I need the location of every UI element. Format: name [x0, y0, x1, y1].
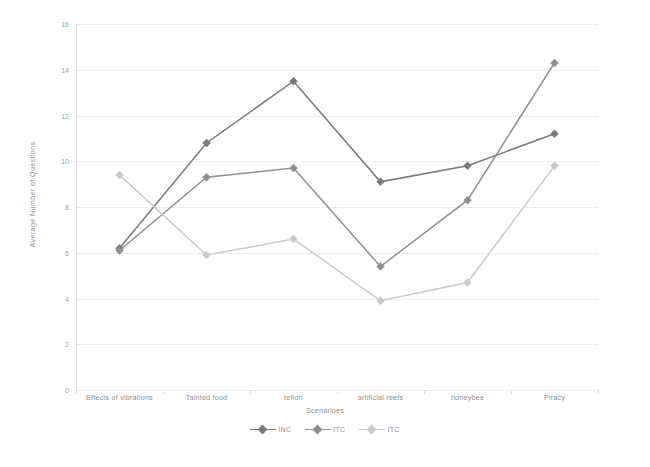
x-axis-category-label: teflon: [284, 393, 303, 402]
legend-item-itc-3[interactable]: ITC: [359, 425, 399, 433]
y-axis-tick-label: 10: [61, 158, 69, 165]
y-axis-tick-label: 8: [65, 204, 69, 211]
legend-line-swatch: [250, 425, 276, 433]
legend-label: ITC: [333, 426, 345, 433]
series-2: [115, 59, 558, 271]
x-axis-title: Scenarioes: [0, 406, 650, 415]
legend-label: ITC: [387, 426, 399, 433]
series-1: [115, 77, 558, 252]
plot-area: 0246810121416: [76, 24, 598, 390]
x-axis-category-label: artificial reefs: [358, 393, 404, 402]
data-point-marker: [550, 59, 558, 67]
legend-line-swatch: [359, 425, 385, 433]
chart-legend: INCITCITC: [0, 425, 650, 433]
x-axis-category-label: Tainted food: [186, 393, 228, 402]
legend-item-inc-1[interactable]: INC: [250, 425, 291, 433]
series-line: [120, 166, 555, 301]
legend-item-itc-2[interactable]: ITC: [305, 425, 345, 433]
x-axis-category-label: Piracy: [544, 393, 565, 402]
data-point-marker: [463, 162, 471, 170]
y-axis-tick-label: 16: [61, 21, 69, 28]
y-axis-tick-label: 0: [65, 387, 69, 394]
y-axis-title: Average Number of Questions: [28, 105, 37, 285]
legend-marker-icon: [313, 425, 323, 435]
y-axis-tick-label: 14: [61, 66, 69, 73]
line-chart: Average Number of Questions 024681012141…: [0, 0, 650, 467]
legend-label: INC: [278, 426, 291, 433]
data-point-marker: [550, 130, 558, 138]
legend-marker-icon: [258, 425, 268, 435]
x-axis-category-label: honeybee: [451, 393, 484, 402]
y-axis-tick-label: 12: [61, 112, 69, 119]
x-axis-category-label: Effects of vibrations: [86, 393, 153, 402]
y-axis-tick-label: 6: [65, 249, 69, 256]
legend-line-swatch: [305, 425, 331, 433]
legend-marker-icon: [367, 425, 377, 435]
series-plot: [76, 24, 598, 390]
y-axis-tick-label: 2: [65, 341, 69, 348]
x-axis-tick-mark: [598, 390, 599, 394]
y-axis-tick-label: 4: [65, 295, 69, 302]
series-3: [115, 162, 558, 305]
